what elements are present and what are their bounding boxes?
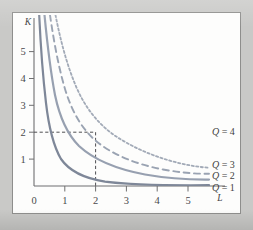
x-tick-label-4: 4 <box>155 195 161 206</box>
curve-labels: Q = 4 Q = 3 Q = 2 Q = 1 <box>212 126 235 193</box>
curve-label-q3: Q = 3 <box>212 159 235 170</box>
chart-frame: 5 4 3 2 1 0 1 2 3 4 5 <box>12 12 241 214</box>
curve-label-q4: Q = 4 <box>212 126 235 137</box>
curve-label-q1: Q = 1 <box>212 182 235 193</box>
x-tick-label-5: 5 <box>185 195 190 206</box>
curve-label-q4-value: = 4 <box>219 126 235 137</box>
y-tick-label-4: 4 <box>20 73 26 84</box>
curve-label-q1-value: = 1 <box>219 182 235 193</box>
y-axis-tick-labels: 5 4 3 2 1 <box>20 46 26 165</box>
y-tick-label-1: 1 <box>20 154 25 165</box>
curve-label-q2-value: = 2 <box>219 170 235 181</box>
y-axis-ticks <box>29 52 34 160</box>
curve-q1 <box>39 15 209 185</box>
figure-container: 5 4 3 2 1 0 1 2 3 4 5 <box>0 0 253 230</box>
y-tick-label-5: 5 <box>20 46 25 57</box>
curve-group <box>39 15 209 185</box>
y-tick-label-3: 3 <box>20 100 25 111</box>
y-axis-title: K <box>24 17 32 27</box>
x-axis-title: L <box>216 193 222 203</box>
curve-label-q3-value: = 3 <box>219 159 235 170</box>
x-axis-ticks <box>65 186 188 192</box>
curve-label-q2: Q = 2 <box>212 170 235 181</box>
isoquant-chart: 5 4 3 2 1 0 1 2 3 4 5 <box>13 13 240 213</box>
x-tick-label-2: 2 <box>93 195 98 206</box>
x-tick-label-1: 1 <box>62 195 67 206</box>
x-tick-label-3: 3 <box>124 195 129 206</box>
x-tick-label-0: 0 <box>31 195 36 206</box>
x-axis-tick-labels: 0 1 2 3 4 5 <box>31 195 190 206</box>
y-tick-label-2: 2 <box>20 127 25 138</box>
curve-q3 <box>50 15 209 174</box>
curve-q2 <box>45 15 210 180</box>
